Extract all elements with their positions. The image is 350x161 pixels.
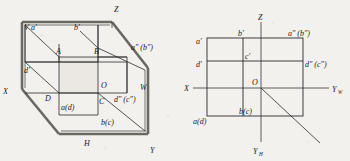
left-label-V: V [24, 23, 30, 32]
x-axis-edge [22, 89, 59, 134]
left-label-X: X [2, 87, 9, 96]
right-label-Z: Z [258, 13, 263, 22]
left-point-B: B [94, 47, 99, 56]
right-label-Yh-group: Y H [253, 147, 263, 157]
left-point-O: O [101, 81, 107, 90]
right-point-d-prime: d′ [196, 60, 202, 69]
left-point-a-prime: a′ [31, 23, 37, 32]
forty-five-degree-line [261, 88, 320, 143]
right-point-d2-c2: d″ (c″) [305, 60, 327, 69]
right-orthographic-view: Z X Y W Y H O a′ b′ a″ (b″) d′ c′ d″ (c″… [183, 13, 343, 157]
left-label-H: H [83, 139, 91, 148]
left-point-a2-b2: a″ (b″) [131, 43, 153, 52]
left-label-Y: Y [150, 146, 156, 155]
front-view-rect [207, 38, 303, 116]
left-point-b-prime: b′ [74, 23, 80, 32]
left-pictorial-view: Z X Y V W H a′ b′ A B d′ O D C a(d) b(c)… [2, 5, 156, 155]
depth-line-d [25, 62, 59, 93]
technical-drawing-canvas: Z X Y V W H a′ b′ A B d′ O D C a(d) b(c)… [0, 0, 350, 161]
left-point-d2-c2: d″ (c″) [114, 95, 136, 104]
right-label-O: O [252, 78, 258, 87]
right-label-Yw-sub: W [338, 89, 343, 95]
right-point-a-prime: a′ [196, 37, 202, 46]
right-point-c-prime: c′ [245, 52, 251, 61]
right-label-X: X [183, 84, 190, 93]
right-point-b-c: b(c) [239, 107, 252, 116]
right-point-a2-b2: a″ (b″) [288, 29, 310, 38]
left-point-a-d: a(d) [61, 103, 75, 112]
right-point-a-d: a(d) [193, 117, 207, 126]
figure-root: Z X Y V W H a′ b′ A B d′ O D C a(d) b(c)… [0, 0, 350, 161]
left-point-A: A [55, 47, 61, 56]
right-label-Yh-sub: H [258, 151, 263, 157]
left-point-d-prime: d′ [24, 66, 30, 75]
left-point-D: D [44, 94, 51, 103]
left-point-b-c: b(c) [101, 118, 114, 127]
left-label-Z: Z [114, 5, 119, 14]
right-label-Yw-group: Y W [332, 85, 343, 95]
left-point-C: C [99, 97, 105, 106]
depth-line-b-diag [80, 31, 98, 48]
right-point-b-prime: b′ [238, 29, 244, 38]
